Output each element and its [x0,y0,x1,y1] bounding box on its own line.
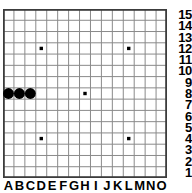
file-label-o: O [155,179,169,193]
rank-label-column: 151413121110987654321 [168,9,192,178]
stones-layer[interactable] [3,88,36,99]
star-point-d4 [40,137,43,140]
board-area[interactable] [3,9,167,178]
rank-label-1: 1 [168,166,192,179]
star-point-d12 [40,47,43,50]
star-point-h8 [83,92,86,95]
board-grid[interactable] [3,9,167,178]
star-point-l4 [127,137,130,140]
star-point-l12 [127,47,130,50]
file-label-row: ABCDEFGHIJKLMNO [3,179,167,193]
stone-black-b8[interactable] [14,88,25,99]
stone-black-c8[interactable] [25,88,36,99]
stone-black-a8[interactable] [3,88,14,99]
gomoku-board-screenshot: 151413121110987654321 ABCDEFGHIJKLMNO [0,0,192,193]
